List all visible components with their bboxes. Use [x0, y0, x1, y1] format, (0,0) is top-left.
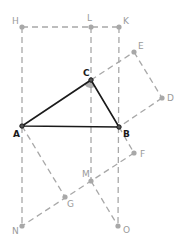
point-F	[131, 150, 136, 155]
label-K: K	[123, 16, 130, 26]
label-D: D	[167, 93, 174, 103]
point-E	[131, 49, 136, 54]
point-H	[19, 24, 24, 29]
construction-segment-FN	[22, 153, 134, 226]
construction-segment-AG	[22, 126, 65, 197]
label-M: M	[82, 169, 90, 179]
label-F: F	[140, 149, 145, 159]
point-M	[88, 178, 93, 183]
construction-segment-DB	[119, 98, 162, 127]
geometry-diagram: HLKECDABFMGNO	[0, 0, 185, 249]
construction-segment-CE	[91, 52, 134, 80]
point-labels: HLKECDABFMGNO	[12, 13, 174, 236]
point-O	[115, 223, 120, 228]
triangle-outline	[22, 80, 119, 127]
label-E: E	[138, 41, 144, 51]
triangle-abc	[22, 80, 119, 127]
point-D	[159, 95, 164, 100]
label-C: C	[83, 68, 90, 78]
point-K	[116, 24, 121, 29]
point-C	[89, 78, 93, 82]
construction-segment-MO	[91, 181, 118, 226]
point-N	[19, 223, 24, 228]
label-G: G	[67, 199, 74, 209]
point-B	[117, 125, 121, 129]
construction-segment-ED	[134, 52, 162, 98]
label-N: N	[12, 226, 19, 236]
label-B: B	[123, 129, 130, 139]
label-L: L	[87, 13, 92, 23]
label-O: O	[123, 225, 130, 235]
label-H: H	[12, 16, 19, 26]
point-A	[20, 124, 24, 128]
label-A: A	[13, 129, 20, 139]
point-L	[88, 24, 93, 29]
